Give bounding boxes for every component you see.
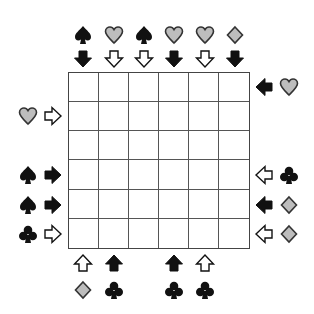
grid-cell[interactable] [99,102,129,131]
grid-cell[interactable] [129,160,159,189]
grid-cell[interactable] [159,73,189,102]
grid-cell[interactable] [69,219,99,248]
grid-cell[interactable] [189,160,219,189]
grid-cell[interactable] [69,131,99,160]
heart-icon [163,24,185,46]
diamond-icon [278,223,300,245]
grid-cell[interactable] [219,131,249,160]
grid-cell[interactable] [129,73,159,102]
heart-icon [278,76,300,98]
grid-cell[interactable] [159,190,189,219]
club-icon [278,164,300,186]
arrow-down-black-icon [163,48,185,70]
heart-icon [194,24,216,46]
arrow-down-white-icon [103,48,125,70]
arrow-up-white-icon [72,252,94,274]
grid-cell[interactable] [69,102,99,131]
grid-cell[interactable] [69,160,99,189]
arrow-right-black-icon [42,194,64,216]
grid-cell[interactable] [219,190,249,219]
arrow-left-black-icon [253,76,275,98]
spade-icon [17,194,39,216]
grid-cell[interactable] [219,160,249,189]
heart-icon [103,24,125,46]
grid-cell[interactable] [129,190,159,219]
grid-cell[interactable] [189,73,219,102]
grid-cell[interactable] [99,219,129,248]
heart-icon [17,105,39,127]
grid-cell[interactable] [99,73,129,102]
club-icon [194,279,216,301]
grid-cell[interactable] [129,102,159,131]
arrow-up-black-icon [163,252,185,274]
grid-cell[interactable] [189,219,219,248]
grid-cell[interactable] [99,190,129,219]
grid-cell[interactable] [129,219,159,248]
puzzle-grid [68,72,250,249]
grid-cell[interactable] [159,102,189,131]
grid-cell[interactable] [189,131,219,160]
grid-cell[interactable] [99,131,129,160]
grid-cell[interactable] [99,160,129,189]
diamond-icon [278,194,300,216]
club-icon [163,279,185,301]
club-icon [103,279,125,301]
arrow-up-black-icon [103,252,125,274]
arrow-down-white-icon [194,48,216,70]
grid-cell[interactable] [159,219,189,248]
grid-cell[interactable] [159,160,189,189]
grid-cell[interactable] [129,131,159,160]
grid-cell[interactable] [159,131,189,160]
grid-cell[interactable] [189,190,219,219]
grid-cell[interactable] [69,190,99,219]
grid-cell[interactable] [219,219,249,248]
spade-icon [133,24,155,46]
diamond-icon [224,24,246,46]
grid-cell[interactable] [219,102,249,131]
grid-cell[interactable] [189,102,219,131]
arrow-down-black-icon [72,48,94,70]
arrow-left-black-icon [253,194,275,216]
arrow-left-white-icon [253,164,275,186]
arrow-down-black-icon [224,48,246,70]
club-icon [17,223,39,245]
spade-icon [72,24,94,46]
arrow-right-white-icon [42,223,64,245]
grid-cell[interactable] [219,73,249,102]
arrow-left-white-icon [253,223,275,245]
arrow-up-white-icon [194,252,216,274]
spade-icon [17,164,39,186]
diamond-icon [72,279,94,301]
grid-cell[interactable] [69,73,99,102]
arrow-right-black-icon [42,164,64,186]
arrow-down-white-icon [133,48,155,70]
arrow-right-white-icon [42,105,64,127]
